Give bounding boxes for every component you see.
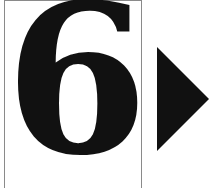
next-arrow-icon[interactable] <box>157 47 209 151</box>
number-card: 6 <box>4 0 142 188</box>
number-label: 6 <box>5 0 143 183</box>
